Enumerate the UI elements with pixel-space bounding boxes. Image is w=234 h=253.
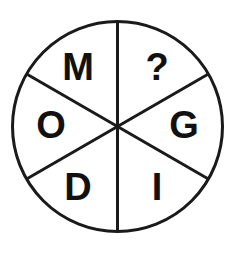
sector-label-bottom-left: D <box>55 168 101 206</box>
puzzle-figure: M ? O G D I <box>0 0 234 253</box>
sector-label-right: G <box>161 106 207 144</box>
sector-label-bottom-right: I <box>134 168 180 206</box>
sector-label-top-right: ? <box>134 48 180 86</box>
sector-label-left: O <box>28 106 74 144</box>
sector-label-top-left: M <box>55 48 101 86</box>
